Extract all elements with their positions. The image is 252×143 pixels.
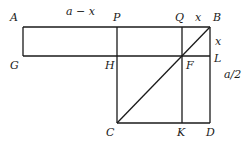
label-c: C (106, 126, 115, 139)
label-k: K (176, 126, 186, 139)
measure-qb-x: x (195, 11, 202, 24)
measure-a-minus-x: a − x (66, 5, 96, 18)
measure-ld-a-half: a/2 (224, 68, 241, 81)
label-f: F (185, 59, 194, 72)
label-q: Q (175, 11, 184, 24)
geometry-diagram: A P Q B G H F L C K D a − x x x a/2 (0, 0, 252, 143)
label-p: P (112, 11, 121, 24)
label-g: G (10, 59, 19, 72)
measure-bl-x: x (215, 35, 222, 48)
label-b: B (212, 11, 221, 24)
label-h: H (104, 59, 115, 72)
label-d: D (205, 126, 215, 139)
label-l: L (213, 52, 221, 65)
label-a: A (9, 11, 18, 24)
diagonal-cb (117, 27, 210, 123)
